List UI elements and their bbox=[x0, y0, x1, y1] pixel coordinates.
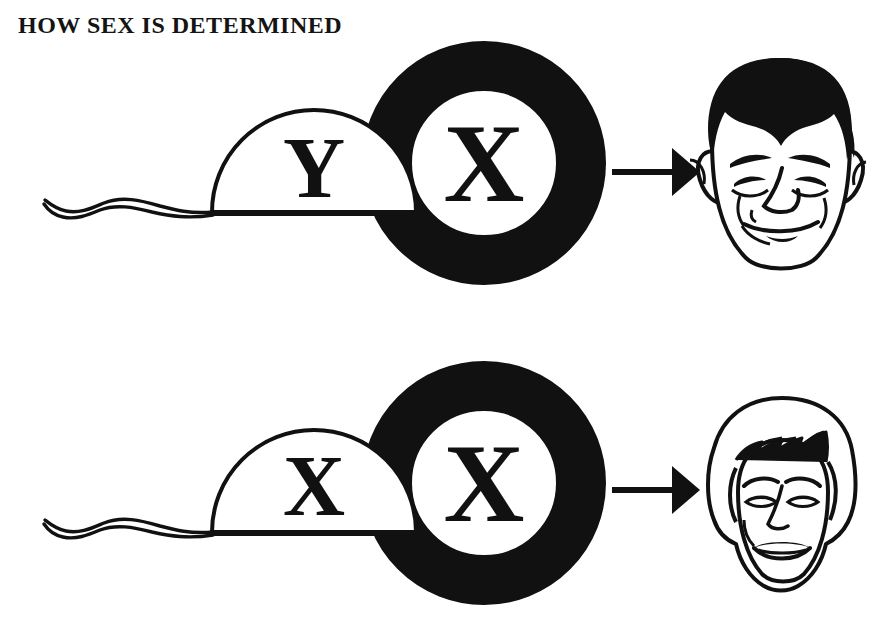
male-face bbox=[690, 58, 866, 269]
sperm-chromosome-label: Y bbox=[283, 120, 345, 216]
sperm-cell-bottom: X bbox=[44, 430, 416, 538]
arrow-head bbox=[672, 148, 700, 196]
sex-determination-diagram: X Y bbox=[0, 0, 881, 635]
sperm-chromosome-label: X bbox=[283, 438, 345, 534]
diagram-page: HOW SEX IS DETERMINED X Y bbox=[0, 0, 881, 635]
female-face bbox=[708, 398, 855, 591]
row-female-outcome: X X bbox=[44, 386, 855, 591]
result-arrow-top bbox=[612, 148, 700, 196]
egg-chromosome-label: X bbox=[444, 101, 525, 225]
arrow-head bbox=[672, 466, 700, 514]
egg-cell-bottom: X bbox=[387, 386, 581, 580]
sperm-cell-top: Y bbox=[44, 110, 416, 218]
row-male-outcome: X Y bbox=[44, 58, 866, 269]
egg-chromosome-label: X bbox=[444, 421, 525, 545]
egg-cell-top: X bbox=[387, 66, 581, 260]
result-arrow-bottom bbox=[612, 466, 700, 514]
